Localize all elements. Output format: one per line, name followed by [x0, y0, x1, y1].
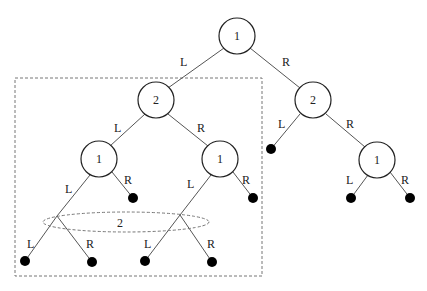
svg-text:L: L — [346, 173, 353, 187]
node-2-right: 2 — [295, 82, 331, 118]
svg-text:L: L — [187, 177, 194, 191]
svg-text:R: R — [86, 237, 94, 251]
svg-text:1: 1 — [234, 29, 240, 43]
svg-text:L: L — [114, 121, 121, 135]
svg-text:R: R — [197, 121, 205, 135]
svg-text:2: 2 — [310, 93, 316, 107]
svg-text:L: L — [27, 237, 34, 251]
node-1-left-left: 1 — [81, 141, 117, 177]
node-2-left: 2 — [138, 82, 174, 118]
svg-text:1: 1 — [96, 152, 102, 166]
svg-text:R: R — [282, 55, 290, 69]
grouped-decision-ellipse — [43, 212, 209, 232]
tree-diagram: 2 1 2 2 1 1 1 L R L R L — [0, 0, 427, 291]
node-root: 1 — [219, 18, 255, 54]
node-1-left-right: 1 — [202, 141, 238, 177]
svg-text:2: 2 — [153, 93, 159, 107]
grouped-label: 2 — [117, 216, 123, 230]
node-1-right-right: 1 — [359, 142, 395, 178]
svg-text:R: R — [401, 173, 409, 187]
svg-text:1: 1 — [217, 152, 223, 166]
svg-text:R: R — [207, 237, 215, 251]
svg-text:R: R — [346, 117, 354, 131]
svg-text:L: L — [278, 117, 285, 131]
svg-text:L: L — [144, 237, 151, 251]
svg-text:1: 1 — [374, 153, 380, 167]
svg-text:R: R — [124, 173, 132, 187]
svg-text:L: L — [180, 55, 187, 69]
subtree-group-box — [15, 78, 262, 276]
svg-text:L: L — [65, 182, 72, 196]
svg-text:R: R — [242, 173, 250, 187]
